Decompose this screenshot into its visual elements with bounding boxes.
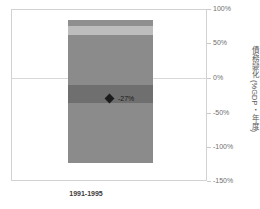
tick-label-0: 0% (213, 74, 223, 82)
tick-mark-neg150 (207, 181, 211, 182)
tick-label-100: 100% (213, 5, 231, 13)
tick-label-neg150: -150% (213, 177, 233, 185)
tick-label-50: 50% (213, 39, 227, 47)
tick-label-neg50: -50% (213, 109, 229, 117)
tick-mark-neg100 (207, 147, 211, 148)
net-value-label: -27% (118, 95, 134, 103)
y-axis-title: 債務變化 (%GDP・年度) (250, 46, 259, 132)
tick-mark-neg50 (207, 113, 211, 114)
x-axis-category-label: 1991-1995 (0, 190, 216, 197)
tick-mark-50 (207, 43, 211, 44)
bar-1991-1995[interactable] (68, 20, 153, 163)
tick-mark-0 (207, 78, 211, 79)
tick-mark-100 (207, 9, 211, 10)
bar-segment-3 (68, 35, 153, 85)
bar-segment-2 (68, 26, 153, 35)
tick-label-neg100: -100% (213, 143, 233, 151)
bar-segment-5 (68, 103, 153, 163)
chart-container: -27% 100% 50% 0% -50% -100% -150% 債務變化 (… (0, 0, 260, 209)
